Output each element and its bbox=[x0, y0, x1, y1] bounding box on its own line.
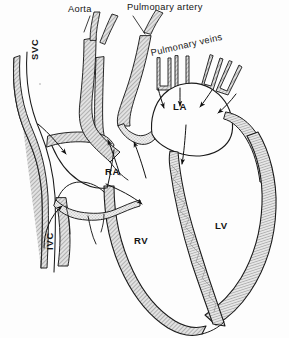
heart-diagram-drawing bbox=[0, 0, 289, 338]
label-right-ventricle: RV bbox=[134, 235, 148, 246]
aortic-arch-branches bbox=[90, 12, 118, 44]
leader-aorta bbox=[84, 16, 90, 32]
interventricular-septum bbox=[169, 151, 225, 326]
label-right-atrium: RA bbox=[105, 166, 120, 177]
arrow-pa-outflow bbox=[134, 142, 146, 178]
label-left-atrium: LA bbox=[173, 101, 187, 112]
label-aorta: Aorta bbox=[68, 4, 92, 14]
label-left-ventricle: LV bbox=[215, 220, 228, 231]
label-pulmonary-artery: Pulmonary artery bbox=[127, 2, 203, 12]
label-svc: SVC bbox=[30, 38, 40, 60]
heart-anatomy-figure: Aorta Pulmonary artery Pulmonary veins S… bbox=[0, 0, 289, 338]
left-atrium-chamber bbox=[152, 83, 233, 156]
leader-pulmonary-artery bbox=[133, 16, 145, 34]
label-ivc: IVC bbox=[45, 232, 55, 250]
